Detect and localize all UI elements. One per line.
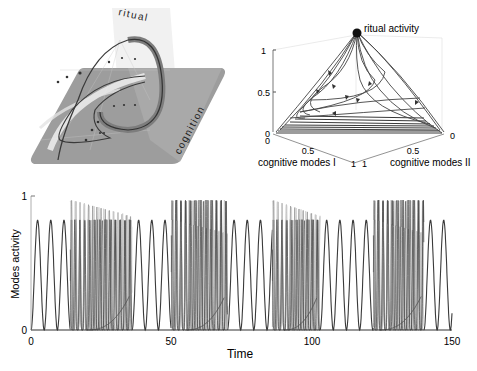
x-tick-150: 150	[444, 336, 461, 347]
axis-label-cognitive-modes-2: cognitive modes II	[390, 157, 471, 168]
series-line	[31, 220, 70, 330]
right-tick-1: 1	[362, 159, 367, 169]
series-line	[424, 220, 452, 330]
x-tick-100: 100	[304, 336, 321, 347]
ritual-activity-vertex	[353, 29, 362, 38]
modes-activity-timeseries: 1 0 0 50 100 150 Time Modes activity	[0, 180, 477, 371]
x-tick-0: 0	[28, 336, 34, 347]
plot-area	[31, 200, 452, 330]
left-tick-0.5: 0.5	[302, 146, 315, 156]
y-tick-1: 1	[21, 191, 27, 202]
x-tick-50: 50	[165, 336, 177, 347]
simplex-3d-plot: 1 0.5 0 0 0.5 1 0 0.5 1 cognitive modes …	[240, 0, 477, 180]
y-axis-label: Modes activity	[9, 229, 21, 299]
apex-label: ritual activity	[364, 23, 419, 34]
z-tick-1: 1	[261, 46, 266, 56]
series-line	[228, 220, 273, 330]
x-axis-label: Time	[227, 347, 254, 361]
z-tick-0.5: 0.5	[257, 88, 270, 98]
series-line	[320, 220, 373, 330]
left-tick-0: 0	[265, 136, 270, 146]
3d-phase-schematic: ritual cognition	[0, 0, 240, 180]
axis-label-cognitive-modes-1: cognitive modes I	[258, 157, 336, 168]
y-tick-0: 0	[21, 325, 27, 336]
right-tick-0: 0	[450, 131, 455, 141]
right-tick-0.5: 0.5	[407, 146, 420, 156]
left-tick-1: 1	[351, 159, 356, 169]
series-line	[132, 220, 171, 330]
